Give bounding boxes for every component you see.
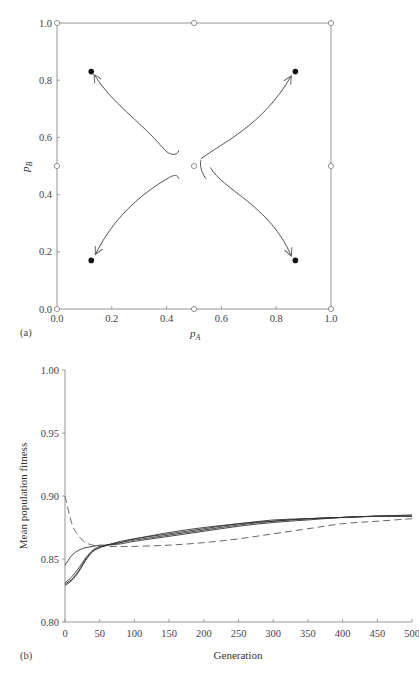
x-axis-label-b: Generation: [214, 649, 263, 661]
y-tick-label: 0.90: [41, 491, 59, 502]
y-tick-label: 0.8: [39, 75, 52, 86]
x-tick-label: 150: [161, 628, 177, 639]
phase-plane-ticks: 0.00.20.40.60.81.00.00.20.40.60.81.0: [39, 18, 338, 325]
y-tick-label: 0.2: [39, 246, 52, 257]
unstable-equilibrium-marker: [328, 20, 333, 25]
y-axis-label-b: Mean population fitness: [17, 443, 29, 549]
y-tick-label: 0.0: [39, 304, 52, 315]
equilibrium-points: [54, 20, 333, 311]
stable-equilibrium-marker: [88, 69, 94, 75]
y-tick-label: 1.00: [41, 365, 59, 376]
stable-equilibrium-marker: [293, 258, 299, 264]
figure: 0.00.20.40.60.81.00.00.20.40.60.81.0 (a)…: [0, 0, 419, 677]
y-tick-label: 0.95: [41, 428, 59, 439]
fitness-line-chart: 0501001502002503003504004505000.800.850.…: [17, 365, 419, 663]
panel-label-a: (a): [20, 327, 32, 339]
trajectory-curve: [200, 160, 206, 179]
unstable-equilibrium-marker: [191, 20, 196, 25]
x-tick-label: 0.0: [50, 313, 63, 324]
x-tick-label: 0.6: [215, 313, 228, 324]
unstable-equilibrium-marker: [328, 306, 333, 311]
unstable-equilibrium-marker: [191, 306, 196, 311]
unstable-equilibrium-marker: [191, 163, 196, 168]
y-tick-label: 0.80: [41, 617, 59, 628]
fitness-axes: 0501001502002503003504004505000.800.850.…: [41, 365, 419, 640]
stable-equilibrium-marker: [88, 258, 94, 264]
y-tick-label: 0.85: [41, 554, 59, 565]
stable-equilibrium-marker: [293, 69, 299, 75]
x-tick-label: 100: [127, 628, 143, 639]
unstable-equilibrium-marker: [54, 163, 59, 168]
x-tick-label: 0.8: [270, 313, 283, 324]
x-tick-label: 400: [335, 628, 351, 639]
x-tick-label: 450: [369, 628, 385, 639]
y-tick-label: 0.6: [39, 132, 52, 143]
x-tick-label: 200: [196, 628, 212, 639]
x-tick-label: 0.4: [160, 313, 174, 324]
x-axis-label-a: pA: [189, 327, 201, 342]
fitness-curve-dashed: [65, 496, 412, 546]
trajectory-curve: [201, 76, 291, 159]
trajectory-curve: [210, 167, 291, 256]
trajectory-curve: [95, 175, 179, 254]
x-tick-label: 1.0: [324, 313, 337, 324]
panel-label-b: (b): [20, 650, 33, 662]
fitness-series: [65, 496, 412, 585]
phase-plane-chart: 0.00.20.40.60.81.00.00.20.40.60.81.0 (a)…: [19, 18, 338, 343]
y-tick-label: 0.4: [39, 189, 53, 200]
x-tick-label: 0.2: [105, 313, 118, 324]
y-axis-label-a: pB: [19, 162, 34, 174]
unstable-equilibrium-marker: [54, 20, 59, 25]
x-tick-label: 350: [300, 628, 316, 639]
x-tick-label: 0: [62, 628, 67, 639]
unstable-equilibrium-marker: [328, 163, 333, 168]
x-tick-label: 300: [265, 628, 281, 639]
x-tick-label: 250: [231, 628, 247, 639]
trajectory-curve: [94, 74, 179, 154]
y-tick-label: 1.0: [39, 18, 52, 29]
unstable-equilibrium-marker: [54, 306, 59, 311]
x-tick-label: 50: [94, 628, 105, 639]
x-tick-label: 500: [404, 628, 419, 639]
